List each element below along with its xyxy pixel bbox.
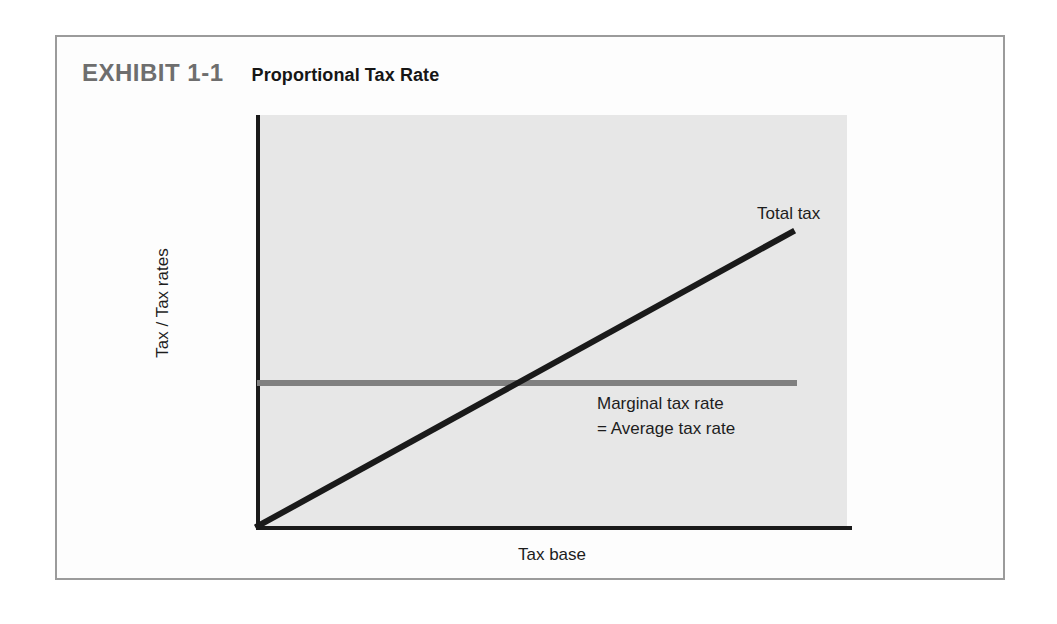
- total-tax-annotation: Total tax: [757, 202, 820, 227]
- total-tax-line: [258, 232, 792, 526]
- exhibit-frame: EXHIBIT 1-1 Proportional Tax Rate Total …: [55, 35, 1005, 580]
- chart-figure: Total tax Marginal tax rate = Average ta…: [57, 37, 1007, 582]
- y-axis-title: Tax / Tax rates: [153, 193, 173, 413]
- marginal-rate-line-1: Marginal tax rate: [597, 392, 735, 417]
- series-overlay: [57, 37, 1007, 582]
- marginal-rate-line-2: = Average tax rate: [597, 417, 735, 442]
- marginal-average-rate-annotation: Marginal tax rate = Average tax rate: [597, 392, 735, 441]
- x-axis-title: Tax base: [257, 545, 847, 565]
